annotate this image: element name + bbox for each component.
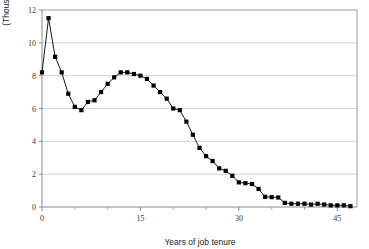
data-point-marker [66,92,70,96]
line-chart-plot: 024681012 0153045 [0,0,369,249]
data-point-marker [151,83,155,87]
data-point-marker [158,90,162,94]
y-tick-label-12: 12 [28,6,36,15]
data-point-marker [165,97,169,101]
data-point-marker [171,106,175,110]
data-point-marker [125,70,129,74]
y-tick-label-10: 10 [28,39,36,48]
data-point-marker [178,108,182,112]
x-tick-label-15: 15 [136,214,144,223]
x-tick-label-30: 30 [235,214,243,223]
x-tick-label-0: 0 [40,214,44,223]
data-point-marker [237,180,241,184]
data-point-marker [335,203,339,207]
y-axis-ticks: 024681012 [28,6,42,212]
data-point-marker [329,203,333,207]
data-point-marker [270,195,274,199]
data-point-marker [316,202,320,206]
data-point-marker [296,202,300,206]
data-point-marker [263,195,267,199]
data-point-marker [73,105,77,109]
data-point-marker [145,77,149,81]
chart-figure: 024681012 0153045 (Thousands) Years of j… [0,0,369,249]
data-point-marker [138,74,142,78]
data-point-marker [119,70,123,74]
data-point-marker [342,203,346,207]
data-point-marker [322,202,326,206]
data-point-marker [86,100,90,104]
data-point-marker [211,159,215,163]
data-point-marker [348,204,352,208]
data-point-marker [204,154,208,158]
data-point-marker [302,202,306,206]
x-tick-label-45: 45 [333,214,341,223]
data-point-marker [230,174,234,178]
data-point-marker [53,55,57,59]
data-point-marker [309,202,313,206]
y-tick-label-6: 6 [32,105,36,114]
y-tick-label-2: 2 [32,170,36,179]
data-point-marker [283,201,287,205]
y-tick-label-0: 0 [32,203,36,212]
data-point-marker [191,133,195,137]
y-tick-label-8: 8 [32,72,36,81]
data-point-marker [92,98,96,102]
x-axis-ticks: 0153045 [40,207,341,223]
data-point-marker [99,90,103,94]
data-point-marker [46,16,50,20]
data-point-marker [250,182,254,186]
data-point-marker [256,187,260,191]
data-point-marker [40,70,44,74]
data-point-marker [243,181,247,185]
data-point-marker [224,169,228,173]
data-point-marker [106,82,110,86]
data-point-marker [60,70,64,74]
y-tick-label-4: 4 [32,137,36,146]
data-point-marker [79,108,83,112]
data-point-marker [289,202,293,206]
data-point-marker [184,120,188,124]
data-point-marker [112,75,116,79]
x-axis-title-text: Years of job tenure [164,237,235,247]
x-axis-title: Years of job tenure [42,231,358,249]
data-point-marker [217,166,221,170]
data-point-marker [276,195,280,199]
data-point-marker [197,146,201,150]
data-point-marker [132,72,136,76]
